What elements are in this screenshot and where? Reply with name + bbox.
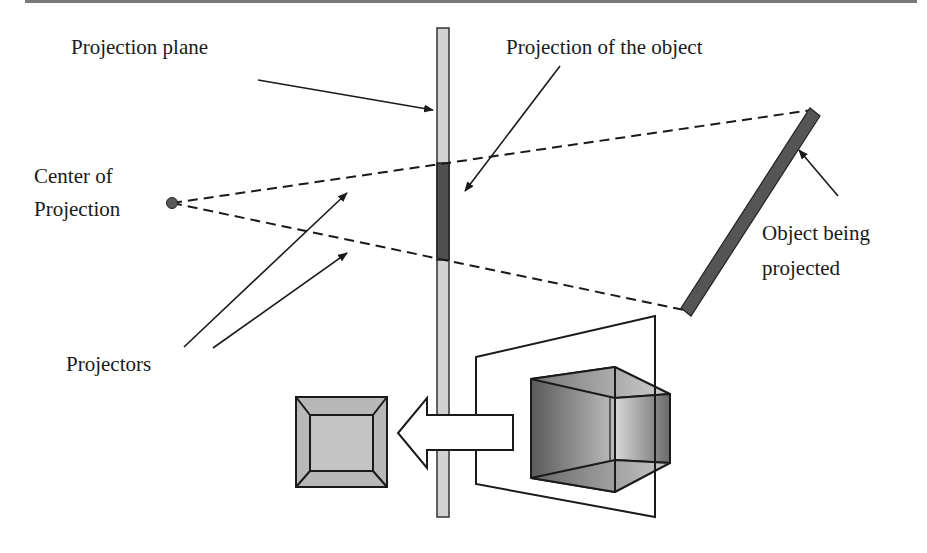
projector-lines bbox=[172, 110, 812, 310]
label-projection-plane: Projection plane bbox=[71, 34, 208, 60]
label-projection-of-object: Projection of the object bbox=[506, 34, 703, 60]
center-of-projection-point bbox=[167, 198, 178, 209]
arrow-to-plane-icon bbox=[258, 80, 433, 110]
projected-object-segment bbox=[437, 163, 449, 260]
projector-bottom-line bbox=[172, 203, 684, 310]
label-center-of-projection-line2: Projection bbox=[34, 196, 120, 222]
object-being-projected bbox=[681, 108, 820, 316]
perspective-inset bbox=[296, 316, 670, 517]
label-center-of-projection-line1: Center of bbox=[34, 163, 113, 189]
projected-square-icon bbox=[296, 397, 387, 487]
cube-icon bbox=[531, 367, 670, 492]
projection-direction-arrow-icon bbox=[398, 398, 513, 468]
pointer-arrows bbox=[184, 66, 838, 348]
label-object-being-projected-line1: Object being bbox=[762, 220, 870, 246]
label-projectors: Projectors bbox=[66, 351, 151, 377]
arrow-to-projection-icon bbox=[465, 66, 560, 191]
arrow-to-object-icon bbox=[799, 150, 838, 196]
label-object-being-projected-line2: projected bbox=[762, 255, 840, 281]
